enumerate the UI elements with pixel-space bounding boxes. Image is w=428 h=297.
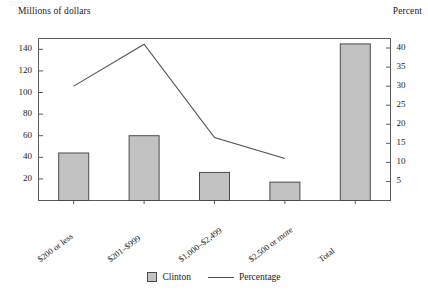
y2-axis-tick-label: 35 <box>397 62 406 71</box>
y-axis-tick-label: 60 <box>4 131 32 140</box>
y2-axis-tick-label: 10 <box>397 157 406 166</box>
y2-axis-tick-label: 5 <box>397 176 402 185</box>
y2-axis-tick-label: 20 <box>397 119 406 128</box>
legend-line-icon <box>208 277 234 278</box>
chart-legend: Clinton Percentage <box>0 272 428 282</box>
percentage-line <box>74 44 285 158</box>
legend-label-clinton: Clinton <box>162 272 191 282</box>
y-axis-tick-label: 100 <box>4 88 32 97</box>
y-axis-tick-label: 20 <box>4 174 32 183</box>
bar <box>129 136 159 201</box>
bar <box>270 182 300 200</box>
y-axis-tick-label: 40 <box>4 152 32 161</box>
y2-axis-tick-label: 15 <box>397 138 406 147</box>
chart-container: Millions of dollars Percent 204060801001… <box>0 0 428 297</box>
bar <box>59 153 89 201</box>
legend-entry-percentage[interactable]: Percentage <box>208 272 281 282</box>
legend-swatch-icon <box>147 272 157 282</box>
y-axis-tick-label: 80 <box>4 109 32 118</box>
y-axis-tick-label: 140 <box>4 44 32 53</box>
legend-entry-clinton[interactable]: Clinton <box>147 272 191 282</box>
y-axis-tick-label: 120 <box>4 66 32 75</box>
plot-area <box>0 0 428 297</box>
y2-axis-tick-label: 30 <box>397 81 406 90</box>
y2-axis-tick-label: 25 <box>397 100 406 109</box>
y2-axis-tick-label: 40 <box>397 43 406 52</box>
bar <box>340 44 370 201</box>
bar <box>200 172 230 200</box>
legend-label-percentage: Percentage <box>239 272 281 282</box>
